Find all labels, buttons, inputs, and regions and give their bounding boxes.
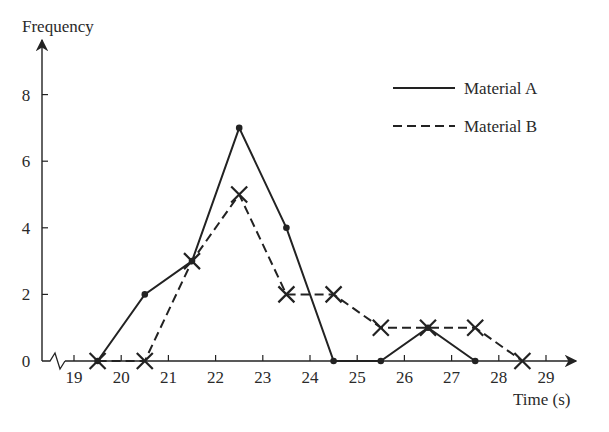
x-tick-label: 25 — [349, 368, 366, 387]
dot-marker-icon — [330, 358, 337, 365]
x-tick-label: 22 — [207, 368, 224, 387]
legend-item-material-b: Material B — [393, 117, 537, 136]
x-axis: 1920212223242526272829 Time (s) — [42, 353, 576, 409]
y-tick-label: 4 — [22, 219, 31, 238]
x-tick-label: 24 — [302, 368, 320, 387]
y-ticks: 02468 — [22, 86, 48, 371]
frequency-polygon-chart: 02468 Frequency 1920212223242526272829 T… — [0, 0, 609, 432]
y-tick-label: 8 — [22, 86, 31, 105]
cross-marker-icon — [326, 286, 342, 302]
y-tick-label: 2 — [22, 285, 31, 304]
y-axis-label: Frequency — [22, 17, 94, 36]
x-tick-label: 26 — [396, 368, 413, 387]
dot-marker-icon — [236, 125, 243, 132]
x-tick-label: 29 — [538, 368, 555, 387]
cross-marker-icon — [373, 320, 389, 336]
x-tick-label: 23 — [254, 368, 271, 387]
cross-marker-icon — [231, 187, 247, 203]
y-axis: 02468 Frequency — [22, 17, 95, 371]
dot-marker-icon — [189, 258, 196, 265]
dot-marker-icon — [425, 324, 432, 331]
dot-marker-icon — [472, 358, 479, 365]
y-tick-label: 0 — [22, 352, 31, 371]
y-tick-label: 6 — [22, 152, 31, 171]
legend-item-material-a: Material A — [393, 79, 538, 98]
legend-label: Material B — [464, 117, 537, 136]
x-tick-label: 21 — [160, 368, 177, 387]
axis-break-icon — [42, 353, 65, 369]
x-tick-label: 20 — [113, 368, 130, 387]
x-tick-label: 19 — [66, 368, 83, 387]
x-ticks: 1920212223242526272829 — [66, 355, 555, 387]
legend-label: Material A — [464, 79, 538, 98]
cross-marker-icon — [467, 320, 483, 336]
x-axis-label: Time (s) — [513, 390, 570, 409]
x-tick-label: 28 — [490, 368, 507, 387]
dot-marker-icon — [142, 291, 149, 298]
dot-marker-icon — [94, 358, 101, 365]
dot-marker-icon — [283, 225, 290, 232]
series-material-b — [90, 187, 531, 370]
legend: Material A Material B — [393, 79, 538, 136]
dot-marker-icon — [378, 358, 385, 365]
plot-series — [90, 125, 531, 369]
x-tick-label: 27 — [443, 368, 461, 387]
